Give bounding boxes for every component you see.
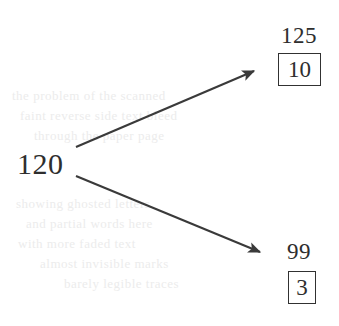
lower-branch-boxed-value: 3 [288,271,316,304]
branching-arrow-diagram: the problem of the scanned faint reverse… [0,0,339,326]
upper-branch-boxed-value: 10 [278,53,321,86]
arrow-upper-branch [76,71,254,147]
lower-branch-value-label: 99 [287,239,311,265]
source-node-label: 120 [17,147,64,181]
upper-branch-value-label: 125 [281,23,317,49]
arrow-lower-branch [76,176,260,252]
